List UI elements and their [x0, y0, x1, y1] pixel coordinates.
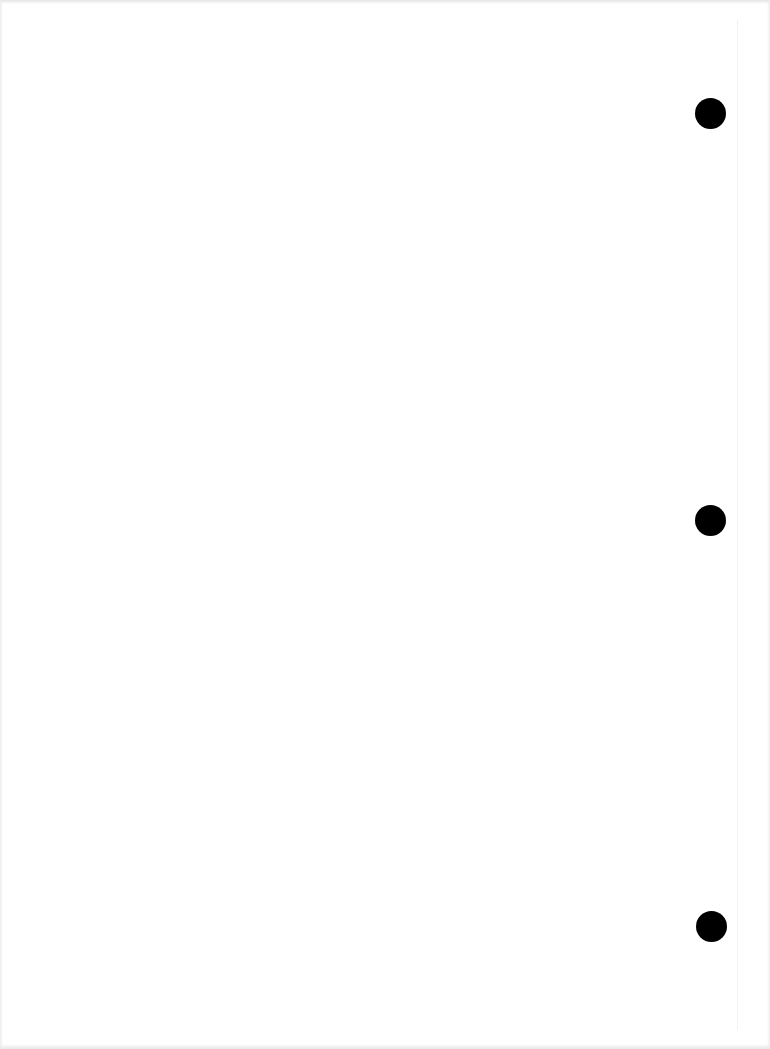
page-fold-line — [737, 20, 738, 1030]
scan-edge-bottom — [0, 1044, 770, 1049]
punch-hole-top — [695, 98, 726, 129]
punch-hole-bottom — [696, 911, 727, 942]
punch-hole-middle — [695, 505, 726, 536]
blank-page — [0, 0, 770, 1049]
scan-edge-left — [0, 0, 3, 1049]
scan-edge-top — [0, 0, 770, 4]
